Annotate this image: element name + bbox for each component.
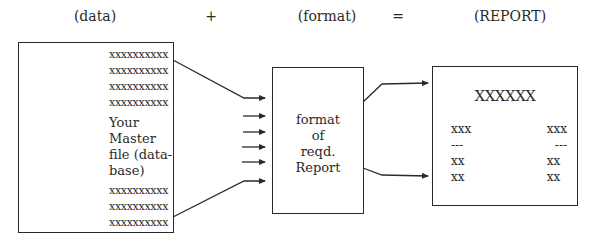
- equals-sign: =: [392, 8, 404, 24]
- data-row: xxxxxxxxxx: [109, 199, 168, 215]
- data-row: xxxxxxxxxx: [109, 79, 168, 95]
- arrow-output-top: [363, 83, 428, 102]
- report-left-column: xxx --- xx xx: [451, 121, 471, 185]
- master-bottom-rows: xxxxxxxxxx xxxxxxxxxx xxxxxxxxxx: [109, 183, 168, 231]
- plus-sign: +: [205, 8, 217, 24]
- arrow-master-bottom: [173, 181, 265, 217]
- data-row: xxxxxxxxxx: [109, 63, 168, 79]
- data-row: xxxxxxxxxx: [109, 215, 168, 231]
- data-row: xxxxxxxxxx: [109, 95, 168, 111]
- master-top-rows: xxxxxxxxxx xxxxxxxxxx xxxxxxxxxx xxxxxxx…: [109, 47, 168, 111]
- arrow-output-bottom: [363, 168, 428, 176]
- report-box: XXXXXX xxx --- xx xx xxx --- xx xx: [432, 66, 578, 206]
- report-heading: (REPORT): [474, 8, 546, 24]
- arrow-master-top: [173, 60, 265, 98]
- data-heading: (data): [74, 8, 116, 24]
- format-heading: (format): [298, 8, 356, 24]
- data-row: xxxxxxxxxx: [109, 47, 168, 63]
- master-file-label: Your Master file (data- base): [109, 115, 173, 179]
- format-box: format of reqd. Report: [272, 67, 364, 214]
- report-title: XXXXXX: [433, 87, 577, 105]
- report-right-column: xxx --- xx xx: [547, 121, 567, 185]
- data-row: xxxxxxxxxx: [109, 183, 168, 199]
- master-file-box: xxxxxxxxxx xxxxxxxxxx xxxxxxxxxx xxxxxxx…: [18, 42, 174, 233]
- format-label: format of reqd. Report: [273, 112, 363, 176]
